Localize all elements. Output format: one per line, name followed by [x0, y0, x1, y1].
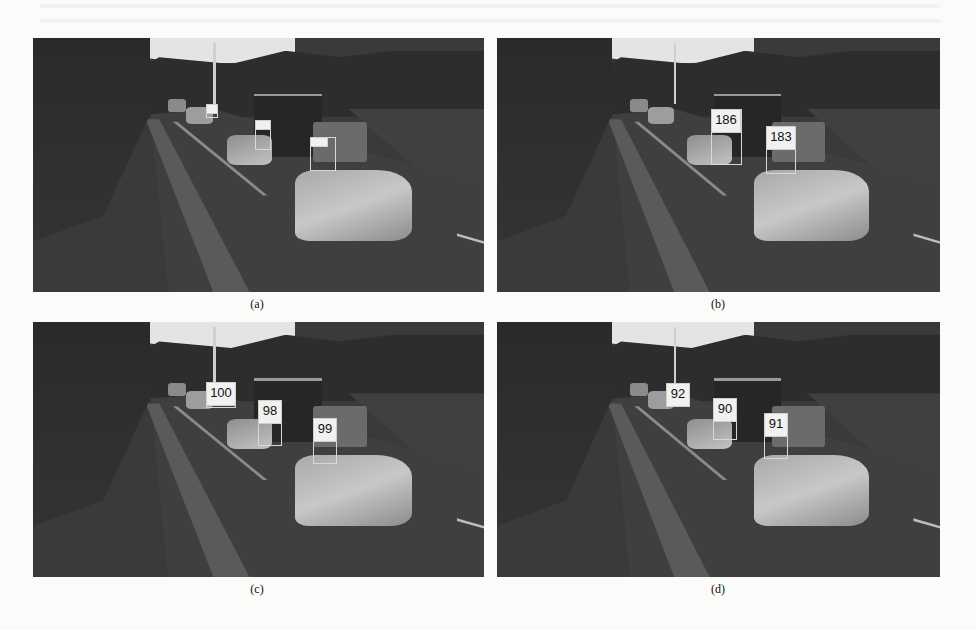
caption-b: (b) [698, 297, 738, 312]
track-id-label-d-90: 90 [713, 398, 737, 422]
panel-b: 186 183 [497, 38, 940, 292]
caption-a: (a) [237, 297, 277, 312]
track-id-label-c-99: 99 [313, 418, 337, 442]
faded-text-bleed [40, 0, 940, 30]
track-id-label-d-92: 92 [666, 383, 690, 407]
track-id-label-c-98: 98 [258, 400, 282, 424]
track-id-label-a-1 [206, 104, 218, 114]
track-id-label-d-91: 91 [764, 413, 788, 437]
traffic-scene-image [33, 322, 484, 577]
traffic-scene-image [497, 38, 940, 292]
track-id-label-c-100: 100 [206, 382, 236, 406]
panel-c: 100 98 99 [33, 322, 484, 577]
traffic-scene-image [497, 322, 940, 577]
caption-c: (c) [237, 582, 277, 597]
track-id-label-a-2 [255, 120, 271, 130]
track-id-label-a-3 [310, 137, 328, 147]
caption-d: (d) [698, 582, 738, 597]
traffic-scene-image [33, 38, 484, 292]
track-id-label-b-183: 183 [766, 126, 796, 150]
panel-a [33, 38, 484, 292]
panel-d: 92 90 91 [497, 322, 940, 577]
track-id-label-b-186: 186 [711, 109, 741, 133]
